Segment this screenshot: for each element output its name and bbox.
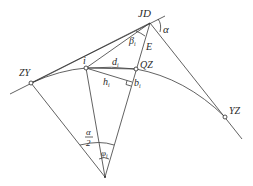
label-b-i: bi xyxy=(134,77,141,89)
label-h-i: hi xyxy=(103,76,110,88)
point-i xyxy=(84,66,88,70)
label-jd: JD xyxy=(138,7,151,19)
point-zy xyxy=(29,81,33,85)
label-e: E xyxy=(145,41,152,52)
label-yz: YZ xyxy=(229,105,241,116)
label-i: i xyxy=(83,55,86,66)
radius-zy xyxy=(31,83,105,177)
label-phi-i: φi xyxy=(101,148,108,159)
label-beta: βi xyxy=(128,35,136,47)
angle-arc-alpha xyxy=(158,19,161,32)
label-alpha: α xyxy=(163,23,169,35)
label-half-alpha-num: α xyxy=(86,127,91,137)
point-yz xyxy=(223,115,227,119)
circular-curve xyxy=(31,67,225,117)
label-half-alpha-den: 2 xyxy=(86,138,91,148)
label-zy: ZY xyxy=(19,67,32,78)
bisector-jd-center xyxy=(105,23,150,177)
tangent-line-right xyxy=(150,23,242,139)
point-center xyxy=(104,176,106,178)
point-qz xyxy=(134,67,138,71)
perpendicular-h-i xyxy=(86,68,132,82)
chord-zy-jd xyxy=(31,23,150,83)
angle-arc-beta xyxy=(136,31,145,36)
label-d-i: di xyxy=(112,56,119,68)
route-curve-diagram: JD α βi E ZY i di QZ hi bi YZ α 2 φi xyxy=(0,0,253,186)
label-qz: QZ xyxy=(140,59,153,70)
